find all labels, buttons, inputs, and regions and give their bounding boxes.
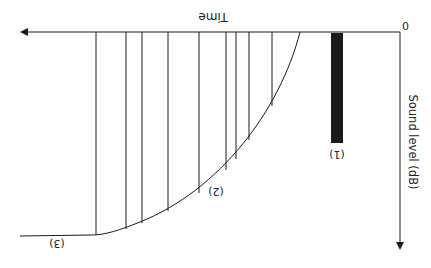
time-axis-label: Time — [198, 10, 228, 24]
early-reflections-label: (2) — [208, 185, 224, 198]
early-reflection-lines — [96, 32, 272, 235]
sound-level-axis-label: Sound level (dB) — [406, 94, 420, 189]
direct-sound-label: (1) — [329, 148, 345, 161]
decay-curve — [20, 32, 300, 236]
sound-decay-diagram: Time 0 Sound level (dB) (1) (2) (3) — [0, 0, 431, 268]
origin-label: 0 — [402, 20, 409, 33]
direct-sound-bar — [331, 33, 343, 143]
reverberant-tail-label: (3) — [49, 237, 65, 250]
